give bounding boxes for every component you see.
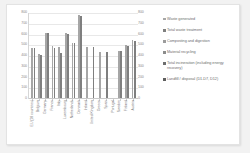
bar-group [90,13,97,99]
bar-group [117,13,124,99]
x-axis-label: Ireland [85,100,89,110]
y-tick-left: 700 [21,22,27,26]
y-tick-right: 500 [138,43,144,47]
bar-group [63,13,70,99]
x-axis-label-cell: Greece [97,100,104,145]
bar [99,52,101,99]
y-axis-right: 8007006005004003002001000 [138,13,154,99]
legend-label: Material recycling [167,50,196,55]
x-axis-label-cell: Sweden [117,100,124,145]
x-axis-label: EU (28 countries) [31,100,35,126]
bar [80,16,82,99]
y-axis-left: 8007006005004003002001000 [11,13,27,99]
legend-swatch-icon [163,78,166,81]
x-axis-labels: EU (28 countries)BelgiumGermanyFranceIta… [28,100,138,145]
legend-item[interactable]: Material recycling [163,50,239,55]
bar-group [84,13,91,99]
x-axis-label-cell: United Kingdom [90,100,97,145]
bar-group [104,13,111,99]
y-tick-left: 100 [21,86,27,90]
y-tick-right: 700 [138,22,144,26]
bar-group [37,13,44,99]
legend-label: Landfill / disposal (D1-D7, D12) [167,77,218,82]
x-axis-label: Greece [98,100,102,111]
x-axis-label: United Kingdom [91,100,95,124]
legend-label: Total incineration (including energy rec… [167,61,239,71]
bar-group [130,13,137,99]
y-tick-left: 500 [21,43,27,47]
legend-label: Composting and digestion [167,39,210,44]
bar [134,41,136,99]
bar [106,52,108,99]
y-tick-left: 800 [21,11,27,15]
bar [86,47,88,99]
x-axis-label-cell: Finland [124,100,131,145]
legend-item[interactable]: Composting and digestion [163,39,239,44]
y-tick-left: 600 [21,33,27,37]
x-axis-label: Portugal [112,100,116,113]
x-axis-label: Spain [105,100,109,109]
bar [74,43,76,99]
x-axis-label-cell: Denmark [76,100,83,145]
bar [40,55,42,99]
x-axis-label: Luxembourg [64,100,68,119]
bar [127,46,129,99]
chart-legend: Waste generatedTotal waste treatmentComp… [163,17,239,89]
x-axis-label: Belgium [37,100,41,112]
legend-item[interactable]: Total waste treatment [163,28,239,33]
x-axis-label-cell: Netherlands [70,100,77,145]
x-axis-label: Netherlands [71,100,75,118]
bar-group [97,13,104,99]
bar [34,48,36,99]
x-axis-label-cell: Belgium [36,100,43,145]
bar-group [110,13,117,99]
y-tick-right: 300 [138,65,144,69]
legend-swatch-icon [163,18,166,21]
x-axis-label: Germany [44,100,48,114]
plot-region: 8007006005004003002001000 80070060050040… [7,5,159,146]
x-axis-label: Finland [125,100,129,111]
y-tick-right: 200 [138,76,144,80]
bar-group [50,13,57,99]
x-axis-label: Denmark [78,100,82,114]
y-tick-right: 600 [138,33,144,37]
y-tick-left: 400 [21,54,27,58]
bar-series-group [29,13,138,99]
bar [67,34,69,99]
legend-item[interactable]: Landfill / disposal (D1-D7, D12) [163,77,239,82]
legend-label: Waste generated [167,17,195,22]
x-axis-label-cell: Luxembourg [63,100,70,145]
bar-group [57,13,64,99]
x-axis-label-cell: Ireland [83,100,90,145]
y-tick-left: 200 [21,76,27,80]
x-axis-label: Sweden [118,100,122,112]
bar [54,48,56,99]
plot-area [28,13,138,99]
chart-container: 8007006005004003002001000 80070060050040… [6,4,240,145]
x-axis-label-cell: France [49,100,56,145]
x-axis-label: France [51,100,55,111]
x-axis-label-cell: Austria [130,100,137,145]
bar-group [124,13,131,99]
legend-item[interactable]: Waste generated [163,17,239,22]
x-axis-label-cell: Spain [103,100,110,145]
bar [60,53,62,99]
legend-swatch-icon [163,51,166,54]
legend-swatch-icon [163,62,166,65]
bar-group [77,13,84,99]
x-axis-label: Austria [132,100,136,111]
bar-group [43,13,50,99]
x-axis-label: Italy [58,100,62,106]
legend-swatch-icon [163,29,166,32]
y-tick-right: 800 [138,11,144,15]
bar [120,51,122,99]
y-tick-right: 100 [138,86,144,90]
x-axis-label-cell: Italy [56,100,63,145]
y-tick-left: 300 [21,65,27,69]
y-tick-right: 400 [138,54,144,58]
legend-item[interactable]: Total incineration (including energy rec… [163,61,239,71]
bar-group [70,13,77,99]
legend-label: Total waste treatment [167,28,202,33]
legend-swatch-icon [163,40,166,43]
bar [93,47,95,99]
